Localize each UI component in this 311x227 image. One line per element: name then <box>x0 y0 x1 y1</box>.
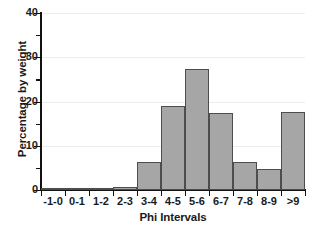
x-tick <box>233 191 234 196</box>
x-tick <box>305 191 306 196</box>
x-tick-label: 2-3 <box>113 196 137 207</box>
bar <box>257 169 281 190</box>
x-tick <box>113 191 114 196</box>
x-tick-label: 1-2 <box>89 196 113 207</box>
x-tick <box>257 191 258 196</box>
x-tick-label: 0-1 <box>65 196 89 207</box>
y-tick-label: 20 <box>0 96 38 107</box>
bar <box>41 188 65 190</box>
x-tick <box>185 191 186 196</box>
bar <box>113 187 137 190</box>
bar <box>185 69 209 190</box>
bar <box>233 162 257 190</box>
x-tick <box>281 191 282 196</box>
x-tick-label: >9 <box>281 196 305 207</box>
histogram-chart: Percentage by weight 010203040 -1-00-11-… <box>0 0 311 227</box>
bar <box>65 188 89 190</box>
x-axis-title: Phi Intervals <box>41 211 305 223</box>
bar <box>209 113 233 190</box>
bar <box>89 188 113 190</box>
x-tick <box>89 191 90 196</box>
x-tick-label: 6-7 <box>209 196 233 207</box>
x-tick-label: 5-6 <box>185 196 209 207</box>
x-tick-label: 8-9 <box>257 196 281 207</box>
x-tick-label: -1-0 <box>41 196 65 207</box>
x-tick <box>65 191 66 196</box>
y-tick-label: 10 <box>0 140 38 151</box>
bar <box>161 106 185 190</box>
bar-series <box>41 13 305 190</box>
x-tick-label: 7-8 <box>233 196 257 207</box>
x-tick-label: 3-4 <box>137 196 161 207</box>
x-tick <box>137 191 138 196</box>
y-tick-label: 30 <box>0 51 38 62</box>
y-tick-label: 40 <box>0 7 38 18</box>
bar <box>281 112 305 190</box>
x-tick <box>41 191 42 196</box>
bar <box>137 162 161 190</box>
x-tick-label: 4-5 <box>161 196 185 207</box>
x-tick <box>209 191 210 196</box>
y-tick-label: 0 <box>0 184 38 195</box>
x-tick <box>161 191 162 196</box>
